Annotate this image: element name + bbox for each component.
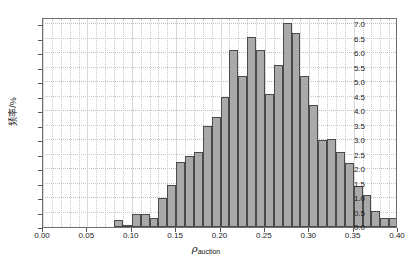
y-tick-mark	[38, 185, 42, 186]
x-tick-label: 0.20	[212, 231, 228, 240]
histogram-bar	[327, 139, 336, 227]
histogram-bar	[185, 156, 194, 227]
x-tick-label: 0.40	[389, 231, 405, 240]
x-axis-label-subscript: auction	[198, 248, 221, 255]
y-tick-label: 2.0	[354, 166, 365, 174]
histogram-bar	[309, 105, 318, 227]
x-tick-label: 0.25	[256, 231, 272, 240]
y-axis-label: 频率/%	[6, 77, 19, 147]
histogram-bar	[380, 218, 389, 227]
y-tick-label: 7.0	[354, 21, 365, 29]
y-tick-label: 5.0	[354, 79, 365, 87]
y-tick-label: 2.5	[354, 152, 365, 160]
plot-area	[42, 18, 397, 228]
histogram-figure: ρauction 频率/% 0.00.51.01.52.02.53.03.54.…	[0, 0, 412, 267]
histogram-bar	[283, 23, 292, 227]
histogram-bar	[132, 214, 141, 227]
histogram-bar	[389, 218, 397, 227]
y-tick-label: 3.0	[354, 137, 365, 145]
y-tick-mark	[38, 214, 42, 215]
histogram-bar	[158, 198, 167, 227]
histogram-bar	[203, 126, 212, 227]
histogram-bar	[345, 163, 354, 227]
x-tick-label: 0.35	[345, 231, 361, 240]
histogram-bar	[336, 152, 345, 227]
y-tick-label: 6.0	[354, 50, 365, 58]
y-tick-mark	[38, 69, 42, 70]
histogram-bar	[176, 162, 185, 227]
histogram-bar	[194, 152, 203, 227]
y-tick-label: 5.5	[354, 65, 365, 73]
histogram-bar	[274, 65, 283, 227]
x-tick-label: 0.10	[123, 231, 139, 240]
y-tick-label: 1.0	[354, 195, 365, 203]
y-tick-mark	[38, 25, 42, 26]
histogram-bar	[221, 97, 230, 227]
histogram-bar	[300, 76, 309, 227]
y-tick-label: 1.5	[354, 181, 365, 189]
y-tick-mark	[38, 40, 42, 41]
x-tick-label: 0.05	[79, 231, 95, 240]
x-tick-label: 0.30	[300, 231, 316, 240]
histogram-bar	[318, 140, 327, 227]
histogram-bar	[150, 218, 159, 227]
histogram-bar	[256, 50, 265, 227]
y-tick-label: 4.0	[354, 108, 365, 116]
x-tick-label: 0.15	[167, 231, 183, 240]
histogram-bar	[114, 220, 123, 227]
histogram-bar	[354, 186, 363, 227]
y-tick-mark	[38, 83, 42, 84]
histogram-bar	[167, 185, 176, 227]
histogram-bar	[212, 117, 221, 227]
histogram-bar	[229, 50, 238, 227]
y-tick-mark	[38, 170, 42, 171]
x-tick-label: 0.00	[34, 231, 50, 240]
y-tick-mark	[38, 127, 42, 128]
y-tick-mark	[38, 54, 42, 55]
y-tick-mark	[38, 156, 42, 157]
histogram-bar	[123, 225, 132, 227]
x-axis-label: ρauction	[0, 243, 412, 255]
y-tick-label: 3.5	[354, 123, 365, 131]
y-tick-label: 0.5	[354, 210, 365, 218]
y-tick-label: 6.5	[354, 36, 365, 44]
y-tick-mark	[38, 112, 42, 113]
histogram-bar	[292, 33, 301, 227]
histogram-bar	[238, 76, 247, 227]
y-tick-mark	[38, 98, 42, 99]
histogram-bar	[247, 37, 256, 227]
histogram-bars	[43, 19, 396, 227]
histogram-bar	[141, 214, 150, 227]
y-tick-mark	[38, 141, 42, 142]
y-tick-label: 4.5	[354, 94, 365, 102]
histogram-bar	[371, 211, 380, 227]
histogram-bar	[265, 94, 274, 227]
y-tick-mark	[38, 199, 42, 200]
